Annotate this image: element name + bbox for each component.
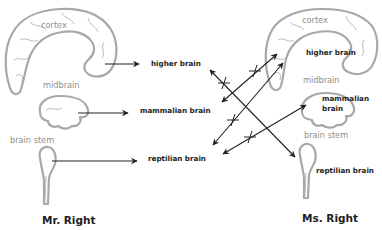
mr-right-brain: cortex midbrain brain stem higher brain … xyxy=(6,9,211,226)
cross-mark-2 xyxy=(249,65,261,77)
right-reptilian-brain-label: reptilian brain xyxy=(316,166,374,175)
right-higher-brain-label: higher brain xyxy=(306,48,356,57)
left-midbrain-label: midbrain xyxy=(43,80,80,90)
connection-reptilian-to-mammalian xyxy=(223,105,306,154)
right-brainstem-label: brain stem xyxy=(304,130,348,140)
cross-mark-4 xyxy=(244,131,256,143)
right-mammalian-label-2: brain xyxy=(322,104,343,113)
cross-mark-3 xyxy=(227,114,239,126)
connection-reptilian-to-higher xyxy=(213,63,283,145)
right-brainstem-icon xyxy=(300,144,316,198)
crossed-connections xyxy=(210,54,306,157)
left-midbrain-icon xyxy=(40,96,88,129)
ms-right-title: Ms. Right xyxy=(302,212,358,224)
left-cortex-label: cortex xyxy=(41,20,67,30)
left-brainstem-icon xyxy=(40,147,56,204)
ms-right-brain: cortex higher brain midbrain mammalian b… xyxy=(266,9,378,224)
brain-compatibility-diagram: cortex midbrain brain stem higher brain … xyxy=(0,0,382,230)
right-midbrain-label: midbrain xyxy=(303,75,340,85)
left-mammalian-brain-label: mammalian brain xyxy=(140,106,211,115)
right-mammalian-label-1: mammalian xyxy=(322,94,369,103)
left-brainstem-label: brain stem xyxy=(10,135,54,145)
left-reptilian-brain-label: reptilian brain xyxy=(148,154,206,163)
mr-right-title: Mr. Right xyxy=(42,214,95,226)
left-higher-brain-label: higher brain xyxy=(151,59,201,68)
right-cortex-label: cortex xyxy=(302,15,328,25)
cross-mark-1 xyxy=(218,77,230,89)
